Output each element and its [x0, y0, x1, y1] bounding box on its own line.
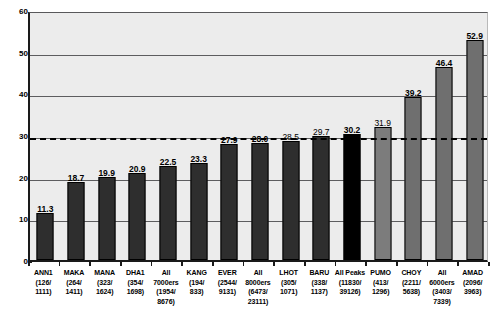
bar-value-label: 18.7 — [68, 174, 85, 183]
x-tick-mark — [304, 262, 306, 266]
bar-slot: 11.3 — [30, 13, 61, 260]
bar-slot: 28.0 — [245, 13, 276, 260]
bar[interactable] — [159, 166, 176, 260]
bar-slot: 22.5 — [153, 13, 184, 260]
x-tick-mark — [335, 262, 337, 266]
bar-value-label: 23.3 — [190, 155, 207, 164]
bar-value-label: 30.2 — [344, 126, 361, 135]
x-tick-mark — [365, 262, 367, 266]
y-tick-label: 60 — [4, 8, 28, 16]
bar[interactable] — [129, 173, 146, 260]
x-tick-mark — [181, 262, 183, 266]
x-tick-mark — [243, 262, 245, 266]
x-tick-mark — [457, 262, 459, 266]
bar-slot: 23.3 — [183, 13, 214, 260]
bar-slot: 52.9 — [459, 13, 490, 260]
x-axis-label: AMAD(2096/3963) — [453, 268, 492, 297]
x-tick-mark — [59, 262, 61, 266]
bar-value-label: 19.9 — [98, 169, 115, 178]
bar-value-label: 28.5 — [282, 133, 299, 142]
bar-value-label: 20.9 — [129, 165, 146, 174]
x-tick-mark — [120, 262, 122, 266]
bar-slot: 28.5 — [275, 13, 306, 260]
x-axis-label-line: 23111) — [239, 297, 278, 307]
y-tick-label: 20 — [4, 175, 28, 183]
bar-value-label: 28.0 — [252, 135, 269, 144]
bar-value-label: 39.2 — [405, 89, 422, 98]
bar-value-label: 22.5 — [160, 158, 177, 167]
bar-value-label: 27.9 — [221, 136, 238, 145]
x-tick-mark — [427, 262, 429, 266]
x-tick-mark — [151, 262, 153, 266]
x-tick-mark — [273, 262, 275, 266]
bar-value-label: 31.9 — [374, 119, 391, 128]
x-axis-label-line: (2096/ — [453, 278, 492, 288]
x-axis-label-line: 8676) — [147, 297, 186, 307]
y-tick-label: 0 — [4, 258, 28, 266]
bar-slot: 31.9 — [367, 13, 398, 260]
bar-slot: 18.7 — [61, 13, 92, 260]
x-axis-labels: ANN1(126/1111)MAKA(264/1411)MANA(323/162… — [28, 264, 488, 320]
bar[interactable] — [313, 136, 330, 260]
x-tick-mark — [89, 262, 91, 266]
bar[interactable] — [67, 182, 84, 260]
y-tick-label: 40 — [4, 91, 28, 99]
bar[interactable] — [435, 67, 452, 260]
x-tick-mark — [28, 262, 30, 266]
y-tick-label: 30 — [4, 133, 28, 141]
y-tick-label: 50 — [4, 50, 28, 58]
x-axis-label-line: AMAD — [453, 268, 492, 278]
bar-value-label: 52.9 — [466, 32, 483, 41]
bar-chart: 0102030405060 11.318.719.920.922.523.327… — [0, 0, 497, 320]
bar[interactable] — [190, 163, 207, 260]
bar[interactable] — [251, 143, 268, 260]
y-axis: 0102030405060 — [0, 12, 28, 262]
bar-slot: 29.7 — [306, 13, 337, 260]
bar[interactable] — [37, 213, 54, 260]
bar-slot: 39.2 — [398, 13, 429, 260]
bar[interactable] — [98, 177, 115, 260]
plot-area: 11.318.719.920.922.523.327.928.028.529.7… — [28, 12, 488, 262]
bar-slot: 27.9 — [214, 13, 245, 260]
x-tick-mark — [488, 262, 490, 266]
bar-slot: 46.4 — [429, 13, 460, 260]
x-tick-mark — [212, 262, 214, 266]
x-tick-mark — [396, 262, 398, 266]
bar[interactable] — [374, 127, 391, 260]
bar-slot: 30.2 — [337, 13, 368, 260]
x-axis-label-line: 3963) — [453, 287, 492, 297]
bar[interactable] — [221, 144, 238, 260]
bar[interactable] — [405, 97, 422, 260]
bar[interactable] — [343, 134, 360, 260]
x-axis-label-line: 7339) — [423, 297, 462, 307]
bar[interactable] — [282, 141, 299, 260]
bar-value-label: 29.7 — [313, 128, 330, 137]
bar[interactable] — [466, 40, 483, 260]
bar-value-label: 46.4 — [436, 59, 453, 68]
bar-value-label: 11.3 — [37, 205, 53, 214]
y-tick-label: 10 — [4, 216, 28, 224]
bar-slot: 20.9 — [122, 13, 153, 260]
bar-slot: 19.9 — [91, 13, 122, 260]
